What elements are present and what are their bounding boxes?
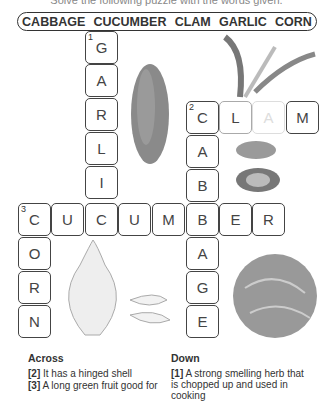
grid-cell[interactable]: L (219, 101, 252, 134)
cell-letter: M (296, 109, 309, 126)
cell-letter: I (99, 174, 103, 191)
down-clues: Down [1] A strong smelling herb that is … (171, 352, 311, 402)
clue-item: [3] A long green fruit good for (28, 380, 178, 391)
cell-letter: B (197, 211, 207, 228)
grid-cell[interactable]: L (85, 132, 118, 165)
grid-cell[interactable]: M (286, 101, 319, 134)
cell-letter: A (263, 109, 273, 126)
cell-letter: B (197, 177, 207, 194)
cell-letter: A (96, 72, 106, 89)
cell-letter: R (29, 279, 40, 296)
cell-letter: A (197, 143, 207, 160)
grid-cell[interactable]: O (18, 237, 51, 270)
grid-cell[interactable]: R (85, 98, 118, 131)
grid-cell[interactable]: B (186, 169, 219, 202)
garlic-image (55, 240, 175, 340)
cell-letter: U (129, 211, 140, 228)
word-bank-item: GARLIC (219, 15, 267, 29)
cell-letter: C (96, 211, 107, 228)
word-bank-item: CLAM (175, 15, 211, 29)
across-clues: Across [2] It has a hinged shell [3] A l… (28, 352, 178, 392)
cell-letter: R (96, 106, 107, 123)
cell-letter: E (230, 211, 240, 228)
grid-cell[interactable]: U (51, 203, 84, 236)
grid-cell[interactable]: A (252, 101, 285, 134)
grid-cell[interactable]: N (18, 305, 51, 338)
cell-letter: G (197, 279, 209, 296)
grid-cell[interactable]: C (85, 203, 118, 236)
down-title: Down (171, 352, 311, 364)
grid-cell[interactable]: R (252, 203, 285, 236)
cell-letter: L (231, 109, 239, 126)
cell-letter: A (197, 245, 207, 262)
clue-number: 2 (189, 102, 194, 112)
across-title: Across (28, 352, 178, 364)
grid-cell[interactable]: U (118, 203, 151, 236)
clam-image (228, 138, 288, 198)
grid-cell[interactable]: A (186, 237, 219, 270)
cell-letter: M (162, 211, 175, 228)
cell-letter: O (29, 245, 41, 262)
grid-cell[interactable]: E (219, 203, 252, 236)
cell-letter: C (197, 109, 208, 126)
cucumber-image (128, 62, 172, 167)
grid-cell[interactable]: E (186, 305, 219, 338)
word-bank-item: CORN (275, 15, 312, 29)
cell-letter: U (62, 211, 73, 228)
clue-item: [1] A strong smelling herb that is chopp… (171, 368, 311, 401)
grid-cell[interactable]: 3C (18, 203, 51, 236)
cell-letter: C (29, 211, 40, 228)
grid-cell[interactable]: M (152, 203, 185, 236)
grid-cell[interactable]: I (85, 166, 118, 199)
clue-item: [2] It has a hinged shell (28, 368, 178, 379)
corn-image (215, 32, 325, 102)
instruction-text: Solve the following puzzle with the word… (0, 0, 333, 6)
cell-letter: L (97, 140, 105, 157)
cell-letter: R (263, 211, 274, 228)
cell-letter: N (29, 313, 40, 330)
cabbage-image (230, 248, 320, 343)
word-bank-item: CABBAGE (22, 15, 85, 29)
grid-cell[interactable]: A (186, 135, 219, 168)
clue-number: 3 (21, 204, 26, 214)
cell-letter: E (197, 313, 207, 330)
grid-cell[interactable]: G (186, 271, 219, 304)
word-bank-item: CUCUMBER (94, 15, 167, 29)
grid-cell[interactable]: R (18, 271, 51, 304)
grid-cell[interactable]: 1G (85, 31, 118, 64)
grid-cell[interactable]: B (186, 203, 219, 236)
grid-cell[interactable]: 2C (186, 101, 219, 134)
clue-number: 1 (88, 32, 93, 42)
grid-cell[interactable]: A (85, 64, 118, 97)
word-bank: CABBAGE CUCUMBER GARLIC CLAM CORN (17, 12, 317, 31)
cell-letter: G (96, 39, 108, 56)
